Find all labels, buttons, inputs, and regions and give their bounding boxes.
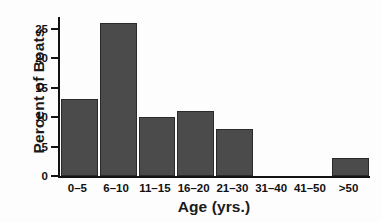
y-tick-label: 20	[35, 52, 48, 64]
bar[interactable]	[216, 129, 253, 176]
bar-slot	[332, 17, 369, 176]
bar-slot	[177, 17, 214, 176]
y-tick-mark	[51, 175, 59, 177]
y-tick-label: 25	[35, 23, 48, 35]
y-tick-mark	[51, 116, 59, 118]
bar-slot	[100, 17, 137, 176]
x-tick-label: >50	[331, 182, 366, 194]
y-tick-mark	[51, 87, 59, 89]
y-tick-label: 15	[35, 82, 48, 94]
plot-area: 0510152025	[58, 17, 370, 178]
x-tick-label: 41–50	[293, 182, 328, 194]
bar-slot	[255, 17, 292, 176]
bar-chart-figure: Percent of Boats 0510152025 0–56–1011–15…	[0, 0, 381, 222]
bar-slot	[61, 17, 98, 176]
x-axis-title: Age (yrs.)	[58, 198, 370, 216]
x-tick-label: 21–30	[215, 182, 250, 194]
bar-slot	[139, 17, 176, 176]
x-tick-label: 11–15	[138, 182, 173, 194]
bar[interactable]	[332, 158, 369, 176]
y-tick-label: 5	[42, 141, 48, 153]
bar[interactable]	[61, 99, 98, 176]
y-tick-label: 10	[35, 111, 48, 123]
y-tick-mark	[51, 28, 59, 30]
bars-layer	[60, 17, 370, 176]
x-axis-tick-labels: 0–56–1011–1516–2021–3031–4041–50>50	[58, 182, 370, 198]
x-tick-label: 31–40	[254, 182, 289, 194]
bar[interactable]	[139, 117, 176, 176]
y-tick-mark	[51, 57, 59, 59]
bar-slot	[216, 17, 253, 176]
x-axis-line	[58, 176, 370, 178]
x-tick-label: 0–5	[60, 182, 95, 194]
x-tick-label: 6–10	[99, 182, 134, 194]
y-tick-label: 0	[42, 170, 48, 182]
y-tick-mark	[51, 146, 59, 148]
x-tick-label: 16–20	[176, 182, 211, 194]
bar[interactable]	[100, 23, 137, 176]
bar[interactable]	[177, 111, 214, 176]
bar-slot	[294, 17, 331, 176]
